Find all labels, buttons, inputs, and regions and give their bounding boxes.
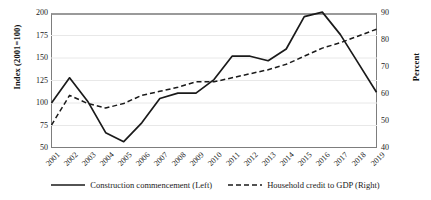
y-axis-left-title: Index (2001=100)	[12, 2, 22, 112]
series-line-2	[52, 29, 377, 125]
y-axis-right-tick-label: 80	[381, 36, 389, 44]
y-axis-left-tick-label: 200	[36, 9, 48, 17]
y-axis-right-tick-label: 90	[381, 9, 389, 17]
y-axis-left-tick-label: 150	[36, 54, 48, 62]
y-axis-left-tick-label: 175	[36, 32, 48, 40]
series-line-1	[52, 12, 377, 142]
y-axis-right-tick-label: 50	[381, 117, 389, 125]
plot-area	[51, 13, 377, 148]
y-axis-right-title: Percent	[411, 22, 421, 112]
legend-item[interactable]: Construction commencement (Left)	[51, 180, 212, 190]
legend-label: Household credit to GDP (Right)	[267, 180, 380, 190]
y-axis-left-tick-label: 50	[40, 144, 48, 152]
legend-label: Construction commencement (Left)	[90, 180, 212, 190]
y-axis-right-tick-label: 70	[381, 63, 389, 71]
chart-legend: Construction commencement (Left)Househol…	[0, 180, 431, 190]
chart-figure: Index (2001=100) Percent 200175150125100…	[0, 0, 431, 200]
y-axis-left-tick-label: 125	[36, 77, 48, 85]
solid-line-icon	[51, 181, 85, 189]
y-axis-right-tick-label: 60	[381, 90, 389, 98]
y-axis-left-tick-label: 75	[40, 122, 48, 130]
y-axis-left-tick-label: 100	[36, 99, 48, 107]
dashed-line-icon	[228, 181, 262, 189]
legend-item[interactable]: Household credit to GDP (Right)	[228, 180, 380, 190]
series-lines	[52, 12, 377, 142]
y-axis-right-tick-label: 40	[381, 144, 389, 152]
